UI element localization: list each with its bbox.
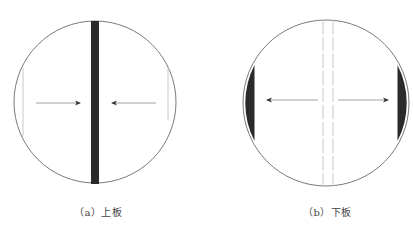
panel-b-right-dark-segment	[398, 65, 407, 141]
panel-a-upper-plate	[14, 21, 176, 184]
panel-b-circle	[243, 20, 409, 186]
panel-b-caption: （b）下板	[303, 204, 352, 219]
panel-a-center-bar	[91, 21, 99, 184]
panel-b-left-dark-segment	[245, 65, 254, 141]
figure-canvas	[0, 0, 413, 229]
panel-a-caption: （a）上板	[74, 204, 122, 219]
panel-b-lower-plate	[243, 20, 409, 186]
